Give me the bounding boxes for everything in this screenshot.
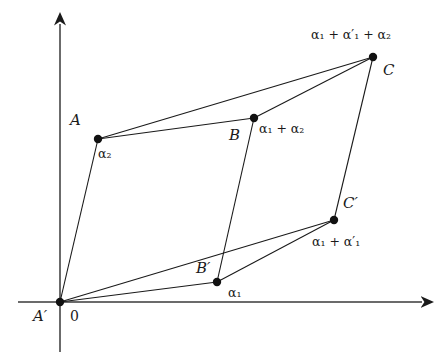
point-C [369, 53, 377, 61]
point-B [250, 114, 258, 122]
diagram-svg [0, 0, 440, 364]
edge-origin-to-Bprime [60, 282, 217, 302]
diagram-canvas: A α₂ B α₁ + α₂ C α₁ + α′₁ + α₂ B′ α₁ C′ … [0, 0, 440, 364]
edge-Bprime-to-Cprime [217, 220, 334, 282]
label-point-Bprime: B′ [196, 261, 210, 276]
point-origin [56, 298, 64, 306]
label-vector-alpha1-plus-alpha2: α₁ + α₂ [259, 123, 304, 136]
label-point-Cprime: C′ [343, 196, 358, 211]
label-vector-alpha2: α₂ [98, 148, 111, 161]
edge-origin-to-A [60, 139, 98, 302]
point-Cprime [330, 216, 338, 224]
label-origin-zero: 0 [70, 309, 79, 323]
vertices-group [56, 53, 377, 306]
edges-group [60, 57, 373, 302]
label-point-B: B [229, 128, 240, 143]
label-vector-alpha1-plus-alpha1prime: α₁ + α′₁ [312, 236, 360, 249]
point-A [94, 135, 102, 143]
label-vector-alpha1-plus-alpha1prime-plus-alpha2: α₁ + α′₁ + α₂ [311, 29, 391, 42]
label-point-Aprime: A′ [33, 309, 47, 324]
label-point-C: C [383, 63, 394, 78]
axes-group [18, 24, 422, 352]
label-point-A: A [70, 113, 81, 128]
label-vector-alpha1: α₁ [228, 287, 241, 300]
point-Bprime [213, 278, 221, 286]
